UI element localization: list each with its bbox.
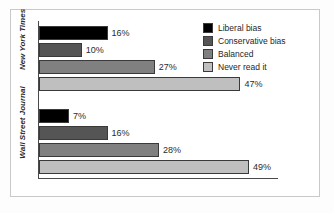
legend-item: Balanced — [203, 48, 313, 60]
bar-value-label: 7% — [73, 109, 86, 123]
legend-swatch-icon — [203, 23, 213, 33]
bar-value-label: 16% — [112, 126, 130, 140]
bar-value-label: 16% — [112, 26, 130, 40]
plot-area: New York Times Wall Street Journal 16%10… — [0, 0, 334, 213]
bar — [39, 160, 249, 174]
bar — [39, 109, 69, 123]
legend-swatch-icon — [203, 49, 213, 59]
chart-figure: New York Times Wall Street Journal 16%10… — [0, 0, 334, 213]
x-axis-line — [38, 178, 278, 179]
legend-item-label: Balanced — [218, 49, 253, 59]
bar-value-label: 47% — [244, 77, 262, 91]
legend-item-label: Never read it — [218, 62, 267, 72]
bar-value-label: 49% — [253, 160, 271, 174]
bar — [39, 26, 108, 40]
legend-item-label: Liberal bias — [218, 23, 261, 33]
legend-swatch-icon — [203, 62, 213, 72]
legend-swatch-icon — [203, 36, 213, 46]
bar-value-label: 28% — [163, 143, 181, 157]
bar — [39, 43, 82, 57]
category-label-new-york-times: New York Times — [18, 0, 27, 80]
bar — [39, 126, 108, 140]
legend-item-label: Conservative bias — [218, 36, 286, 46]
chart-legend: Liberal biasConservative biasBalancedNev… — [203, 22, 313, 74]
legend-item: Never read it — [203, 61, 313, 73]
legend-item: Liberal bias — [203, 22, 313, 34]
bar — [39, 60, 155, 74]
bar-value-label: 10% — [86, 43, 104, 57]
legend-item: Conservative bias — [203, 35, 313, 47]
bar-value-label: 27% — [159, 60, 177, 74]
bar — [39, 143, 159, 157]
bar — [39, 77, 240, 91]
category-label-wall-street-journal: Wall Street Journal — [18, 83, 27, 163]
